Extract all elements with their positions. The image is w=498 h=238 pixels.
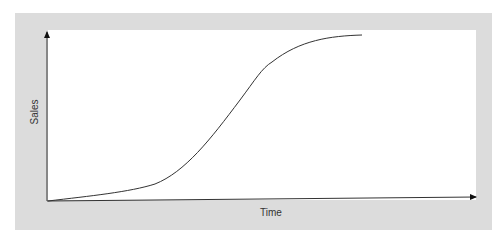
sales-curve	[48, 35, 362, 201]
y-axis-label: Sales	[29, 92, 43, 132]
chart-svg	[0, 0, 498, 238]
x-axis	[47, 197, 476, 201]
x-axis-label: Time	[260, 207, 282, 218]
